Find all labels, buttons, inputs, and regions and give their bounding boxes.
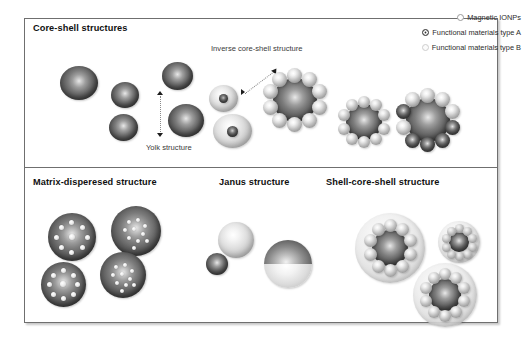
satellite-sphere-type-a	[420, 137, 435, 152]
intermediate-sphere	[442, 243, 451, 252]
shell-core-shell-small	[438, 221, 480, 263]
embedded-dot	[80, 225, 85, 230]
intermediate-sphere	[455, 252, 464, 261]
satellite-sphere	[312, 100, 327, 115]
embedded-dot	[136, 239, 140, 243]
legend-item-magnetic-ionps: Magnetic IONPs	[408, 8, 521, 23]
intermediate-sphere	[372, 260, 385, 273]
embedded-dot	[75, 282, 80, 287]
embedded-dot	[120, 289, 124, 293]
embedded-dot	[61, 296, 66, 301]
intermediate-sphere	[463, 250, 472, 259]
panel-title-shell-core-shell: Shell-core-shell structure	[326, 177, 439, 187]
faint-open-circle-icon	[422, 44, 429, 51]
intermediate-sphere	[404, 248, 417, 261]
embedded-dot	[69, 250, 74, 255]
intermediate-sphere	[396, 260, 409, 273]
intermediate-sphere	[458, 295, 470, 307]
intermediate-sphere	[447, 227, 456, 236]
intermediate-sphere	[439, 310, 451, 322]
janus-top-dark-half	[264, 240, 312, 264]
embedded-dot	[115, 281, 119, 285]
embedded-dot	[120, 272, 124, 276]
satellite-sphere	[338, 123, 350, 135]
intermediate-sphere	[364, 234, 377, 247]
embedded-dot	[130, 269, 134, 273]
embedded-dot	[124, 283, 128, 287]
satellite-sphere	[338, 109, 350, 121]
matrix-dispersed-cluster	[100, 252, 146, 298]
embedded-dot	[123, 263, 127, 267]
embedded-dot	[132, 283, 136, 287]
matrix-dispersed-cluster	[111, 206, 161, 256]
satellite-sphere-type-b	[420, 88, 435, 103]
yolk-sphere-upper	[162, 62, 193, 90]
satellite-sphere-type-b	[396, 120, 411, 135]
yolk-sphere-lower	[168, 104, 204, 137]
satellite-sphere	[272, 72, 287, 87]
embedded-dot	[136, 218, 140, 222]
embedded-dot	[143, 224, 147, 228]
bullseye-circle-icon	[422, 29, 429, 36]
embedded-dot	[71, 273, 76, 278]
arrowhead-down-icon	[157, 133, 163, 137]
satellite-sphere-type-b	[405, 92, 420, 107]
satellite-sphere	[287, 68, 302, 83]
embedded-dot	[51, 292, 56, 297]
embedded-dot	[85, 235, 90, 240]
panel-title-core-shell: Core-shell structures	[33, 23, 128, 33]
core-shell-sphere	[60, 66, 98, 100]
legend-label: Magnetic IONPs	[467, 13, 521, 22]
satellite-sphere	[358, 136, 370, 148]
inner-dark-core	[219, 94, 228, 103]
embedded-dot	[111, 273, 115, 277]
intermediate-sphere	[458, 282, 470, 294]
embedded-dot	[127, 220, 131, 224]
embedded-dot	[61, 268, 66, 273]
intermediate-sphere	[450, 306, 462, 318]
intermediate-sphere	[420, 295, 432, 307]
embedded-dot	[71, 292, 76, 297]
panel-title-matrix-dispersed: Matrix-disperesed structure	[33, 177, 157, 187]
satellite-structure-small	[338, 96, 390, 148]
intermediate-sphere	[428, 272, 440, 284]
shell-core-shell-lower	[413, 263, 477, 327]
embedded-dot	[145, 239, 149, 243]
embedded-dot	[132, 227, 136, 231]
satellite-sphere	[378, 123, 390, 135]
embedded-dot	[59, 245, 64, 250]
satellite-structure-mixed	[396, 88, 460, 152]
core-shell-sphere	[109, 114, 138, 141]
core-shell-sphere	[111, 82, 139, 108]
intermediate-sphere	[384, 264, 397, 277]
embedded-dot	[132, 246, 136, 250]
satellite-sphere	[312, 84, 327, 99]
panel-title-janus: Janus structure	[219, 177, 289, 187]
embedded-dot	[59, 225, 64, 230]
embedded-dot	[80, 245, 85, 250]
satellite-sphere	[302, 113, 317, 128]
satellite-sphere	[378, 109, 390, 121]
satellite-sphere	[287, 117, 302, 132]
intermediate-sphere	[404, 234, 417, 247]
dotted-line	[160, 96, 161, 134]
satellite-sphere-type-b	[445, 104, 460, 119]
legend: Magnetic IONPs Functional materials type…	[408, 8, 521, 53]
satellite-sphere-type-a	[405, 133, 420, 148]
legend-item-type-a: Functional materials type A	[408, 23, 521, 38]
legend-item-type-b: Functional materials type B	[408, 38, 521, 53]
legend-label: Functional materials type B	[432, 43, 521, 52]
embedded-dot	[123, 228, 127, 232]
satellite-sphere-type-a	[435, 133, 450, 148]
inner-dark-core	[227, 126, 238, 137]
matrix-dispersed-ring	[41, 262, 86, 307]
satellite-sphere	[272, 113, 287, 128]
embedded-dot	[69, 220, 74, 225]
matrix-sphere	[111, 206, 161, 256]
janus-bisected-sphere	[264, 240, 312, 288]
embedded-dot	[128, 277, 132, 281]
intermediate-sphere	[420, 282, 432, 294]
legend-label: Functional materials type A	[432, 28, 521, 37]
annotation-inverse-core-shell: Inverse core-shell structure	[211, 44, 303, 53]
embedded-dot	[114, 265, 118, 269]
